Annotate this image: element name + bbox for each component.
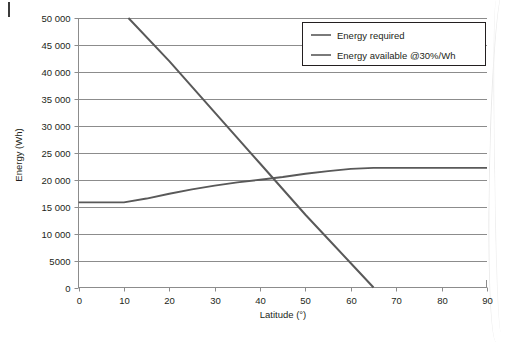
y-tick-label: 20 000: [41, 175, 70, 186]
y-axis-ticks: [75, 19, 79, 289]
x-tick-label: 0: [77, 295, 82, 306]
chart-legend[interactable]: Energy required Energy available @30%/Wh: [303, 23, 486, 66]
x-tick-label: 90: [482, 295, 493, 306]
x-axis-tick-labels: 0102030405060708090: [77, 295, 493, 306]
x-tick-label: 80: [437, 295, 448, 306]
y-tick-label: 45 000: [41, 40, 70, 51]
x-tick-label: 10: [119, 295, 130, 306]
x-tick-label: 70: [391, 295, 402, 306]
y-axis-title: Energy (Wh): [13, 128, 24, 181]
legend-label-energy-available: Energy available @30%/Wh: [337, 50, 455, 61]
y-axis-tick-labels: 0500010 00015 00020 00025 00030 00035 00…: [41, 13, 70, 294]
y-tick-label: 40 000: [41, 67, 70, 78]
legend-label-energy-required: Energy required: [337, 30, 405, 41]
y-tick-label: 5000: [49, 256, 70, 267]
x-axis-ticks: [80, 288, 488, 292]
series-line-energy-available: [79, 168, 488, 203]
y-tick-label: 50 000: [41, 13, 70, 24]
x-tick-label: 60: [346, 295, 357, 306]
x-axis-title: Latitude (°): [260, 309, 307, 320]
x-tick-label: 30: [210, 295, 221, 306]
y-tick-label: 0: [65, 283, 70, 294]
y-tick-label: 25 000: [41, 148, 70, 159]
y-tick-label: 10 000: [41, 229, 70, 240]
x-tick-label: 20: [164, 295, 175, 306]
y-tick-label: 15 000: [41, 202, 70, 213]
y-tick-label: 30 000: [41, 121, 70, 132]
x-tick-label: 40: [255, 295, 266, 306]
x-tick-label: 50: [300, 295, 311, 306]
y-tick-label: 35 000: [41, 94, 70, 105]
